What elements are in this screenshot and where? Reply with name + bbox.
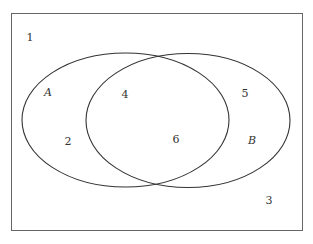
region-label-5: 5 [242,88,249,99]
venn-diagram [0,0,313,244]
set-label-b: B [248,135,256,146]
set-a-ellipse [22,53,229,187]
region-label-2: 2 [65,136,72,147]
region-label-4: 4 [122,89,129,100]
set-b-ellipse [86,54,290,188]
region-label-3: 3 [266,195,273,206]
region-label-6: 6 [173,134,180,145]
set-label-a: A [44,87,52,98]
universe-frame [12,14,303,231]
region-label-1: 1 [27,32,34,43]
